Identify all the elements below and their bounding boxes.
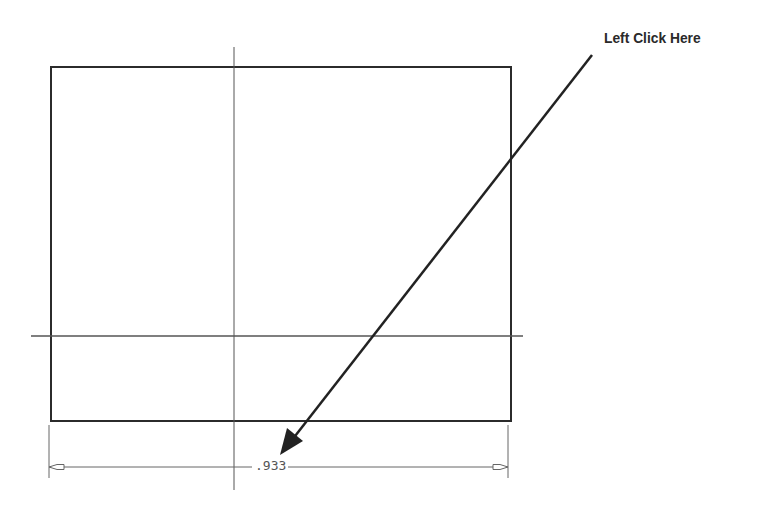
part-outline xyxy=(51,67,511,421)
dimension-arrow-left-icon xyxy=(49,465,64,470)
callout-arrow-shaft xyxy=(292,55,592,440)
drawing-canvas xyxy=(0,0,768,518)
dimension-value[interactable]: .933 xyxy=(254,458,287,474)
callout-label: Left Click Here xyxy=(604,29,701,46)
dimension-arrow-right-icon xyxy=(493,465,508,470)
